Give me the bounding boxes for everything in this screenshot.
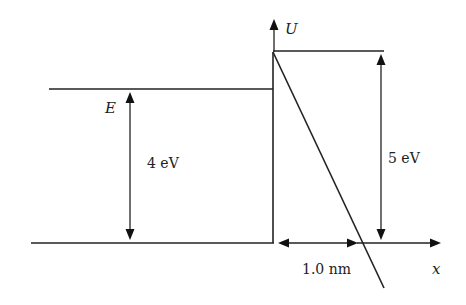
barrier-width-label: 1.0 nm <box>302 261 351 277</box>
x-axis-label: x <box>432 260 441 278</box>
u-axis-arrowhead-icon <box>270 19 279 30</box>
energy-arrowhead-down-icon <box>126 229 135 240</box>
barrier-height-label: 5 eV <box>388 150 421 166</box>
x-axis-arrowhead-icon <box>430 239 441 248</box>
width-arrowhead-left-icon <box>278 239 289 248</box>
sloped-potential-line <box>273 52 384 288</box>
barrier-arrowhead-down-icon <box>377 229 386 240</box>
electron-energy-label: 4 eV <box>147 155 180 171</box>
barrier-arrowhead-up-icon <box>377 54 386 65</box>
diagram-canvas: U E 4 eV 5 eV 1.0 nm x <box>0 0 466 305</box>
width-arrowhead-right-icon <box>347 239 358 248</box>
u-axis-label: U <box>285 20 299 38</box>
energy-level-label: E <box>104 99 116 117</box>
potential-barrier-diagram: U E 4 eV 5 eV 1.0 nm x <box>0 0 466 305</box>
energy-arrowhead-up-icon <box>126 92 135 103</box>
